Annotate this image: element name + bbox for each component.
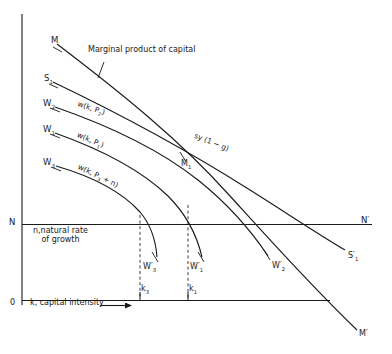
curve-label-m-prime: M′ [359, 330, 368, 339]
tick-label-k1: k1 [189, 285, 197, 296]
curve-label-s1: S1 [44, 74, 53, 85]
curve-label-w2-prime: W′2 [272, 262, 285, 273]
mpk-caption-leader-line [98, 62, 104, 78]
tick-label-k3: k3 [141, 285, 149, 296]
leader-line-m [53, 47, 62, 52]
axis-label-n-prime: N′ [361, 216, 369, 226]
x-axis-label: k, capital intensity [30, 299, 104, 308]
natural-rate-caption-line2: of growth [33, 236, 88, 245]
curve-label-m1-mid: M1 [181, 160, 191, 171]
curve-label-s1-prime: S′1 [348, 252, 358, 263]
curve-label-w3: W3 [43, 158, 55, 169]
axis-label-n: N [9, 218, 15, 228]
leader-line-w2-prime [264, 250, 270, 260]
curve-label-w1-prime: W′1 [190, 263, 203, 274]
origin-label: 0 [10, 299, 15, 308]
curve-label-w1: W1 [43, 125, 55, 136]
curve-label-m: M [51, 36, 58, 46]
curve-label-w3-prime: W′3 [143, 263, 156, 274]
figure-canvas: M Marginal product of capital S1 W2 W1 W… [0, 0, 392, 354]
natural-rate-caption: n,natural rate of growth [33, 227, 88, 245]
mpk-caption: Marginal product of capital [88, 46, 195, 55]
curve-label-w2: W2 [43, 99, 55, 110]
